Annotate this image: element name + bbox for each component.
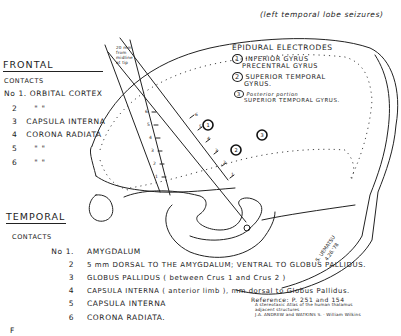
epidural-title: EPIDURAL ELECTRODES: [232, 43, 333, 52]
temporal-contact-6: 6 CORONA RADIATA.: [50, 313, 165, 322]
epidural-item-1: 1 INFERIOR GYRUS PRECENTRAL GYRUS: [232, 56, 318, 70]
epidural-item-3: 3 Posterior portion SUPERIOR TEMPORAL GY…: [234, 91, 340, 103]
contact-number: 3: [50, 273, 74, 282]
contact-text: CORONA RADIATA.: [87, 313, 165, 322]
frontal-contact-1: No 1. ORBITAL CORTEX: [4, 89, 103, 98]
temporal-probe-line-left: [108, 52, 246, 222]
frontal-contacts-label: CONTACTS: [4, 77, 44, 85]
contact-text: " ": [34, 158, 45, 167]
contact-text: ORBITAL CORTEX: [30, 89, 103, 98]
brainstem-line: [262, 205, 355, 220]
frontal-tick-6: 6: [145, 109, 148, 114]
contact-number: 4: [12, 130, 17, 139]
contact-text: AMYGDALUM: [87, 247, 141, 256]
epidural-item-number: 3: [234, 90, 244, 98]
frontal-title: FRONTAL: [3, 59, 103, 72]
temporal-tick-4: 4: [207, 136, 210, 141]
frontal-contact-6: 6 " ": [12, 158, 45, 167]
inferior-horn: [89, 195, 113, 221]
electrode-3-label: 3: [260, 132, 263, 138]
probe-note: 20 mm from midline at tip: [116, 45, 133, 65]
frontal-tick-1: 1: [155, 174, 158, 179]
frontal-tick-2: 2: [153, 161, 156, 166]
contact-number: 3: [12, 117, 17, 126]
frontal-tick-5: 5: [147, 122, 150, 127]
contact-number: 4: [50, 286, 74, 295]
contact-text: CAPSULA INTERNA: [87, 299, 166, 308]
frontal-contact-4: 4 CORONA RADIATA: [12, 130, 102, 139]
frontal-contact-2: 2 " ": [12, 104, 45, 113]
frontal-probe-line-right: [130, 40, 170, 195]
temporal-tick-2: 2: [223, 160, 226, 165]
contact-number: No 1.: [50, 247, 74, 256]
probe-note-line: at tip: [116, 60, 133, 65]
epidural-item-line: SUPERIOR TEMPORAL GYRUS.: [244, 97, 340, 103]
temporal-contact-3: 3 GLOBUS PALLIDUS ( between Crus 1 and C…: [50, 273, 286, 282]
temporal-contacts-label: CONTACTS: [12, 233, 52, 241]
epidural-item-2: 2 SUPERIOR TEMPORAL GYRUS.: [232, 74, 326, 88]
frontal-tick-3: 3: [151, 148, 154, 153]
seizure-note: (left temporal lobe seizures): [260, 10, 384, 19]
ventricle-frontal: [90, 146, 235, 192]
frontal-tick-4: 4: [149, 135, 152, 140]
contact-number: 5: [50, 299, 74, 308]
frontal-contact-3: 3 CAPSULA INTERNA: [12, 117, 105, 126]
contact-number: No 1.: [4, 89, 27, 98]
reference-block: Reference: P. 251 and 154 A stereotaxic …: [251, 297, 361, 317]
electrode-2-label: 2: [234, 147, 237, 153]
frontal-probe-ticks: [152, 112, 166, 177]
epidural-item-line: GYRUS.: [244, 80, 272, 88]
temporal-tick-3: 3: [215, 148, 218, 153]
contact-number: 6: [12, 158, 17, 167]
contact-text: CAPSULA INTERNA ( anterior limb ), mm do…: [87, 287, 350, 295]
contact-text: 5 mm DORSAL TO THE AMYGDALUM; VENTRAL TO…: [87, 261, 366, 269]
contact-text: " ": [34, 104, 45, 113]
contact-text: GLOBUS PALLIDUS ( between Crus 1 and Cru…: [87, 274, 286, 282]
temporal-tick-5: 5: [199, 124, 202, 129]
contact-text: " ": [34, 144, 45, 153]
temporal-title: TEMPORAL: [6, 211, 66, 224]
contact-number: 5: [12, 144, 17, 153]
contact-number: 2: [50, 260, 74, 269]
temporal-contact-5: 5 CAPSULA INTERNA: [50, 299, 166, 308]
temporal-tick-6: 6: [195, 112, 198, 117]
temporal-dotted: [100, 160, 128, 190]
small-structure: [244, 225, 250, 231]
temporal-contact-4: 4 CAPSULA INTERNA ( anterior limb ), mm …: [50, 286, 350, 295]
temporal-contact-2: 2 5 mm DORSAL TO THE AMYGDALUM; VENTRAL …: [50, 260, 366, 269]
epidural-item-number: 2: [232, 72, 243, 82]
electrode-1-label: 1: [206, 122, 209, 128]
skull-inner-outline: [282, 55, 389, 288]
reference-line: J.A. ANDREW and WATKINS S. · William Wil…: [255, 312, 361, 317]
temporal-contact-1: No 1. AMYGDALUM: [50, 247, 141, 256]
temporal-tick-1: 1: [231, 172, 234, 177]
corner-mark: F: [10, 326, 15, 335]
hippocampus-loop: [166, 205, 275, 257]
contact-number: 6: [50, 313, 74, 322]
contact-text: CAPSULA INTERNA: [26, 117, 105, 126]
frontal-probe-line-left: [105, 45, 160, 192]
contact-text: CORONA RADIATA: [26, 130, 101, 139]
epidural-item-line: PRECENTRAL GYRUS: [242, 62, 318, 70]
frontal-contact-5: 5 " ": [12, 144, 45, 153]
contact-number: 2: [12, 104, 17, 113]
